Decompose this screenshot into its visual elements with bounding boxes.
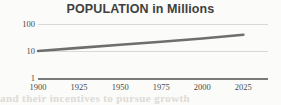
- y-tick-label-100: 100: [5, 19, 35, 29]
- series-polyline: [38, 35, 243, 51]
- population-data-line: [38, 18, 268, 80]
- x-tick-label-2000: 2000: [182, 82, 222, 92]
- x-tick-label-2025: 2025: [223, 82, 263, 92]
- x-tick-label-1900: 1900: [18, 82, 58, 92]
- population-line-chart: and their incentives to pursue growth PO…: [0, 0, 281, 105]
- x-axis-tick-labels: 190019251950197520002025: [38, 82, 268, 94]
- plot-area: [38, 18, 268, 80]
- y-axis-tick-labels: 100 10 1: [2, 18, 35, 80]
- chart-title: POPULATION in Millions: [0, 2, 281, 16]
- x-tick-label-1950: 1950: [100, 82, 140, 92]
- y-tick-label-10: 10: [5, 46, 35, 56]
- x-tick-label-1925: 1925: [59, 82, 99, 92]
- x-tick-label-1975: 1975: [141, 82, 181, 92]
